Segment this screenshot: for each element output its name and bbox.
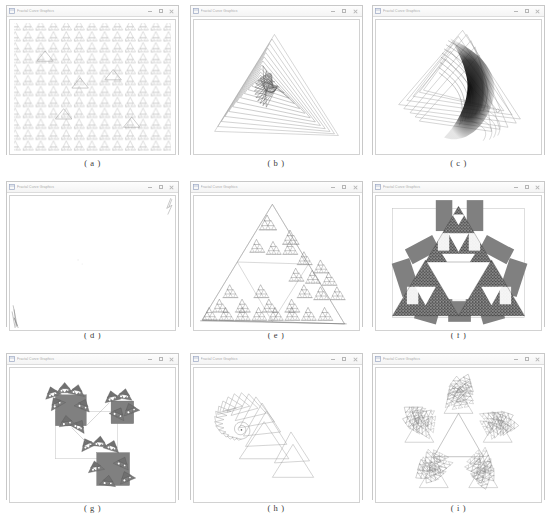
canvas-wrap-h <box>191 365 362 505</box>
window-controls <box>330 355 360 363</box>
app-window-icon <box>193 356 199 362</box>
close-button[interactable] <box>168 7 175 15</box>
titlebar-g[interactable]: Fractal Curve Graphics <box>7 354 178 365</box>
panel-caption-b: ( b ) <box>267 158 284 168</box>
close-button[interactable] <box>534 355 541 363</box>
titlebar-f[interactable]: Fractal Curve Graphics <box>373 182 544 193</box>
maximize-button[interactable] <box>523 183 530 191</box>
close-button[interactable] <box>352 355 359 363</box>
fractal-canvas-d[interactable] <box>9 195 176 331</box>
close-button[interactable] <box>534 183 541 191</box>
app-window-icon <box>193 184 199 190</box>
window-title: Fractal Curve Graphics <box>17 8 146 14</box>
app-window-icon <box>9 356 15 362</box>
canvas-wrap-d <box>7 193 178 333</box>
fractal-canvas-e[interactable] <box>193 195 360 331</box>
window-title: Fractal Curve Graphics <box>383 8 512 14</box>
fractal-canvas-c[interactable] <box>375 19 542 155</box>
maximize-button[interactable] <box>341 183 348 191</box>
window-d[interactable]: Fractal Curve Graphics <box>6 181 179 327</box>
titlebar-h[interactable]: Fractal Curve Graphics <box>191 354 362 365</box>
fractal-canvas-h[interactable] <box>193 367 360 503</box>
fractal-canvas-i[interactable] <box>375 367 542 503</box>
window-i[interactable]: Fractal Curve Graphics <box>372 353 545 500</box>
close-button[interactable] <box>352 183 359 191</box>
minimize-button[interactable] <box>512 7 519 15</box>
close-button[interactable] <box>168 183 175 191</box>
app-window-icon <box>375 356 381 362</box>
window-g[interactable]: Fractal Curve Graphics <box>6 353 179 500</box>
window-a[interactable]: Fractal Curve Graphics <box>6 5 179 155</box>
minimize-button[interactable] <box>330 7 337 15</box>
window-title: Fractal Curve Graphics <box>17 184 146 190</box>
app-window-icon <box>9 8 15 14</box>
window-title: Fractal Curve Graphics <box>383 356 512 362</box>
panel-caption-a: ( a ) <box>84 158 101 168</box>
panel-f: Fractal Curve Graphics <box>367 176 550 348</box>
window-controls <box>330 183 360 191</box>
window-f[interactable]: Fractal Curve Graphics <box>372 181 545 327</box>
minimize-button[interactable] <box>330 355 337 363</box>
canvas-wrap-a <box>7 17 178 157</box>
titlebar-b[interactable]: Fractal Curve Graphics <box>191 6 362 17</box>
app-window-icon <box>193 8 199 14</box>
canvas-wrap-i <box>373 365 544 505</box>
panel-i: Fractal Curve Graphics <box>367 348 550 523</box>
panel-b: Fractal Curve Graphics <box>185 0 367 176</box>
panel-g: Fractal Curve Graphics <box>0 348 185 523</box>
canvas-wrap-e <box>191 193 362 333</box>
maximize-button[interactable] <box>157 183 164 191</box>
window-title: Fractal Curve Graphics <box>17 356 146 362</box>
maximize-button[interactable] <box>523 7 530 15</box>
window-e[interactable]: Fractal Curve Graphics <box>190 181 363 327</box>
close-button[interactable] <box>168 355 175 363</box>
figure-sheet: Fractal Curve Graphics <box>0 0 555 523</box>
app-window-icon <box>375 8 381 14</box>
minimize-button[interactable] <box>146 183 153 191</box>
window-b[interactable]: Fractal Curve Graphics <box>190 5 363 155</box>
canvas-wrap-f <box>373 193 544 333</box>
fractal-canvas-a[interactable] <box>9 19 176 155</box>
panel-e: Fractal Curve Graphics <box>185 176 367 348</box>
window-controls <box>512 7 542 15</box>
panel-d: Fractal Curve Graphics <box>0 176 185 348</box>
titlebar-e[interactable]: Fractal Curve Graphics <box>191 182 362 193</box>
titlebar-a[interactable]: Fractal Curve Graphics <box>7 6 178 17</box>
window-h[interactable]: Fractal Curve Graphics <box>190 353 363 500</box>
window-title: Fractal Curve Graphics <box>201 356 330 362</box>
minimize-button[interactable] <box>512 183 519 191</box>
maximize-button[interactable] <box>523 355 530 363</box>
maximize-button[interactable] <box>157 355 164 363</box>
window-controls <box>146 183 176 191</box>
app-window-icon <box>375 184 381 190</box>
minimize-button[interactable] <box>146 7 153 15</box>
titlebar-i[interactable]: Fractal Curve Graphics <box>373 354 544 365</box>
window-controls <box>146 7 176 15</box>
canvas-wrap-c <box>373 17 544 157</box>
titlebar-c[interactable]: Fractal Curve Graphics <box>373 6 544 17</box>
panel-c: Fractal Curve Graphics <box>367 0 550 176</box>
fractal-canvas-g[interactable] <box>9 367 176 503</box>
window-title: Fractal Curve Graphics <box>201 8 330 14</box>
window-controls <box>146 355 176 363</box>
window-controls <box>512 355 542 363</box>
panel-h: Fractal Curve Graphics <box>185 348 367 523</box>
maximize-button[interactable] <box>157 7 164 15</box>
fractal-canvas-f[interactable] <box>375 195 542 331</box>
maximize-button[interactable] <box>341 355 348 363</box>
panel-grid: Fractal Curve Graphics <box>0 0 555 523</box>
minimize-button[interactable] <box>512 355 519 363</box>
fractal-canvas-b[interactable] <box>193 19 360 155</box>
canvas-wrap-g <box>7 365 178 505</box>
minimize-button[interactable] <box>330 183 337 191</box>
window-c[interactable]: Fractal Curve Graphics <box>372 5 545 155</box>
app-window-icon <box>9 184 15 190</box>
maximize-button[interactable] <box>341 7 348 15</box>
minimize-button[interactable] <box>146 355 153 363</box>
canvas-wrap-b <box>191 17 362 157</box>
close-button[interactable] <box>352 7 359 15</box>
window-title: Fractal Curve Graphics <box>383 184 512 190</box>
window-controls <box>512 183 542 191</box>
close-button[interactable] <box>534 7 541 15</box>
titlebar-d[interactable]: Fractal Curve Graphics <box>7 182 178 193</box>
